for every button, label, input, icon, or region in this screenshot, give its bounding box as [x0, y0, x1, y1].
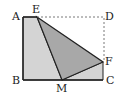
label-e: E	[32, 4, 40, 15]
label-m: M	[56, 83, 67, 94]
label-d: D	[105, 11, 114, 22]
label-b: B	[12, 75, 20, 86]
label-f: F	[105, 56, 113, 67]
label-a: A	[12, 11, 20, 22]
label-c: C	[106, 75, 114, 86]
